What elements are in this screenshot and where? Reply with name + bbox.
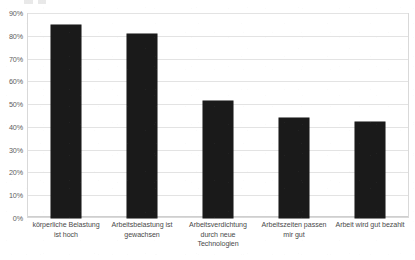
y-tick-label-10: 10% xyxy=(9,191,23,200)
y-axis-tick-labels: 90%80%70%60%50%40%30%20%10%0% xyxy=(0,13,25,218)
bar-slot xyxy=(332,14,408,218)
x-category-label-line: Arbeitszeiten passen xyxy=(256,221,332,231)
y-tick-label-0: 0% xyxy=(13,214,23,223)
x-category-label-line: gewachsen xyxy=(104,231,180,241)
x-axis-category-labels: körperliche Belastungist hochArbeitsbela… xyxy=(28,221,408,260)
y-tick-label-30: 30% xyxy=(9,145,23,154)
bar-slot xyxy=(180,14,256,218)
x-category-label: Arbeitsverdichtungdurch neueTechnologien xyxy=(180,221,256,250)
x-category-label-line: Arbeit wird gut bezahlt xyxy=(332,221,408,231)
bar-slot xyxy=(104,14,180,218)
y-tick-label-60: 60% xyxy=(9,77,23,86)
cropped-title-artifact xyxy=(24,0,58,4)
x-category-label: körperliche Belastungist hoch xyxy=(28,221,104,240)
bar-slot xyxy=(256,14,332,218)
x-category-label-line: Arbeitsverdichtung xyxy=(180,221,256,231)
y-tick-label-50: 50% xyxy=(9,100,23,109)
x-category-label: Arbeitsbelastung istgewachsen xyxy=(104,221,180,240)
x-category-label: Arbeit wird gut bezahlt xyxy=(332,221,408,231)
x-category-label-line: Technologien xyxy=(180,240,256,250)
y-tick-label-40: 40% xyxy=(9,122,23,131)
y-tick-label-20: 20% xyxy=(9,168,23,177)
bar[interactable] xyxy=(203,101,233,218)
y-tick-label-80: 80% xyxy=(9,31,23,40)
bar-chart: 90%80%70%60%50%40%30%20%10%0% körperlich… xyxy=(0,0,415,260)
x-category-label-line: durch neue xyxy=(180,231,256,241)
y-tick-label-90: 90% xyxy=(9,9,23,18)
bar-slot xyxy=(28,14,104,218)
x-category-label: Arbeitszeiten passenmir gut xyxy=(256,221,332,240)
bar[interactable] xyxy=(127,34,157,218)
x-category-label-line: mir gut xyxy=(256,231,332,241)
bar[interactable] xyxy=(51,25,81,218)
bar[interactable] xyxy=(279,118,309,218)
x-category-label-line: körperliche Belastung xyxy=(28,221,104,231)
bar-series xyxy=(28,14,408,218)
bar[interactable] xyxy=(355,122,385,218)
x-category-label-line: Arbeitsbelastung ist xyxy=(104,221,180,231)
x-category-label-line: ist hoch xyxy=(28,231,104,241)
y-tick-label-70: 70% xyxy=(9,54,23,63)
